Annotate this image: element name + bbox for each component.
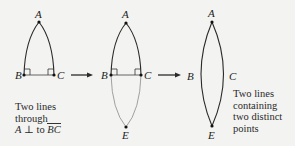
line-right-curve bbox=[212, 22, 224, 126]
line-AB-curve bbox=[24, 22, 39, 75]
arrow-2 bbox=[158, 73, 181, 78]
point-B bbox=[22, 73, 25, 76]
figure-3: A B C E bbox=[187, 7, 237, 141]
caption-line-1: Two lines bbox=[233, 88, 282, 100]
figure-1: A B C bbox=[15, 8, 65, 81]
caption-figure-3: Two lines containing two distinct points bbox=[233, 88, 282, 134]
caption-line-3: A ⊥ to BC bbox=[15, 124, 61, 136]
label-E: E bbox=[207, 129, 215, 141]
caption-line-3: two distinct bbox=[233, 111, 282, 123]
point-ref-A: A bbox=[15, 124, 21, 135]
point-A bbox=[37, 20, 40, 23]
line-left-curve bbox=[201, 22, 212, 126]
label-A: A bbox=[121, 8, 129, 20]
line-CE-curve bbox=[126, 75, 141, 127]
arrow-head-icon bbox=[87, 73, 93, 78]
perpendicular-symbol: ⊥ bbox=[24, 124, 34, 135]
figure-2: A B C E bbox=[101, 8, 152, 141]
point-A bbox=[124, 21, 127, 24]
label-B: B bbox=[15, 69, 22, 81]
label-C: C bbox=[229, 70, 237, 82]
label-B: B bbox=[101, 69, 108, 81]
label-A: A bbox=[34, 8, 42, 20]
line-BE-curve bbox=[111, 75, 126, 127]
point-E bbox=[210, 124, 213, 127]
point-B bbox=[109, 73, 112, 76]
point-C bbox=[139, 73, 142, 76]
caption-line-4: points bbox=[233, 123, 282, 135]
label-C: C bbox=[57, 69, 65, 81]
arrow-1 bbox=[71, 73, 93, 78]
caption-figure-1: Two lines through A ⊥ to BC bbox=[15, 101, 61, 136]
arrow-head-icon bbox=[175, 73, 181, 78]
line-AB-curve bbox=[111, 23, 126, 75]
line-AC-curve bbox=[126, 23, 141, 75]
label-E: E bbox=[121, 129, 129, 141]
line-AC-curve bbox=[39, 22, 54, 75]
label-B: B bbox=[187, 70, 194, 82]
line-ref-BC: BC bbox=[47, 124, 60, 135]
point-C bbox=[52, 73, 55, 76]
point-A bbox=[210, 20, 213, 23]
label-A: A bbox=[207, 7, 215, 19]
caption-line-1: Two lines bbox=[15, 101, 61, 113]
label-C: C bbox=[144, 69, 152, 81]
caption-to: to bbox=[37, 124, 45, 135]
caption-line-2: containing bbox=[233, 100, 282, 112]
